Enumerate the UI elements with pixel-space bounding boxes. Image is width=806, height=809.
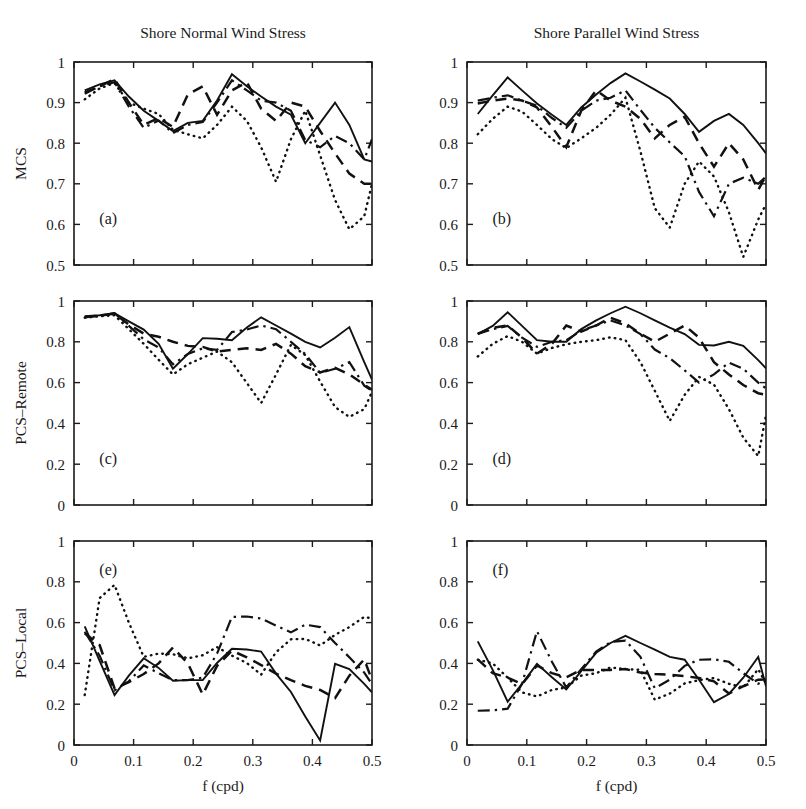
series-line-dotted (478, 660, 766, 700)
panel-f: 00.20.40.60.8100.10.20.30.40.5f (cpd)(f) (439, 534, 775, 796)
axes-frame (467, 541, 766, 745)
panel-tag: (a) (99, 210, 117, 228)
series-line-dashed (85, 633, 372, 698)
series-line-dashdot (478, 631, 766, 711)
series-line-dashdot (478, 320, 766, 388)
y-ticklabel: 1 (58, 534, 66, 550)
series-line-solid (478, 307, 766, 369)
y-ticklabel: 0.2 (46, 697, 65, 713)
series-line-dotted (478, 336, 766, 456)
x-ticklabel: 0.3 (637, 753, 656, 769)
axes-frame (467, 301, 766, 505)
y-ticklabel: 1 (451, 534, 459, 550)
series-line-solid (478, 73, 766, 153)
column-title-2: Shore Parallel Wind Stress (534, 24, 700, 41)
y-ticklabel: 0.8 (46, 574, 65, 590)
y-ticklabel: 0.8 (46, 136, 65, 152)
panel-d: 00.20.40.60.81(d) (439, 294, 766, 514)
axes-frame (74, 301, 372, 505)
panel-tag: (c) (99, 450, 117, 468)
x-ticklabel: 0.1 (124, 753, 143, 769)
y-ticklabel: 0 (451, 738, 459, 754)
panel-tag: (d) (492, 450, 511, 468)
series-line-dashed (478, 90, 766, 189)
y-ticklabel: 0 (58, 738, 66, 754)
y-ticklabel: 1 (451, 294, 459, 310)
y-ticklabel: 0.9 (439, 95, 458, 111)
y-ticklabel: 0.6 (46, 217, 65, 233)
y-ticklabel: 0.7 (46, 176, 65, 192)
series-line-dashdot (85, 80, 372, 159)
y-ticklabel: 1 (58, 294, 66, 310)
y-ticklabel: 0.9 (46, 95, 65, 111)
x-axis-title: f (cpd) (596, 777, 638, 795)
x-ticklabel: 0 (463, 753, 471, 769)
x-ticklabel: 0.4 (303, 753, 322, 769)
panel-b: 0.50.60.70.80.91(b) (439, 55, 766, 274)
x-ticklabel: 0.5 (757, 753, 776, 769)
series-line-dashed (478, 318, 766, 395)
x-ticklabel: 0.3 (243, 753, 262, 769)
x-ticklabel: 0.5 (363, 753, 382, 769)
y-ticklabel: 1 (58, 55, 66, 71)
y-ticklabel: 0.2 (439, 457, 458, 473)
x-ticklabel: 0.2 (577, 753, 596, 769)
y-ticklabel: 0.8 (439, 136, 458, 152)
panel-a: 0.50.60.70.80.91MCS(a) (12, 55, 372, 274)
panel-tag: (b) (492, 210, 511, 228)
x-ticklabel: 0.1 (517, 753, 536, 769)
x-axis-title: f (cpd) (202, 777, 244, 795)
y-ticklabel: 0.8 (439, 334, 458, 350)
y-ticklabel: 0.2 (46, 457, 65, 473)
panel-c: 00.20.40.60.81PCS–Remote(c) (12, 294, 372, 514)
panel-e: 00.20.40.60.8100.10.20.30.40.5PCS–Localf… (12, 534, 381, 796)
series-line-dotted (85, 315, 372, 417)
y-ticklabel: 0.4 (439, 656, 458, 672)
y-ticklabel: 0.6 (46, 615, 65, 631)
x-ticklabel: 0.4 (697, 753, 716, 769)
x-ticklabel: 0 (70, 753, 78, 769)
y-ticklabel: 0.8 (46, 334, 65, 350)
axes-frame (74, 541, 372, 745)
y-ticklabel: 0.6 (439, 615, 458, 631)
series-line-dotted (478, 98, 766, 257)
axes-frame (467, 62, 766, 265)
y-ticklabel: 0.8 (439, 574, 458, 590)
multi-panel-coherence-figure: Shore Normal Wind StressShore Parallel W… (0, 0, 806, 809)
y-ticklabel: 1 (451, 55, 459, 71)
y-axis-title: PCS–Local (12, 608, 29, 679)
column-title-1: Shore Normal Wind Stress (140, 24, 306, 41)
y-ticklabel: 0.6 (439, 217, 458, 233)
y-ticklabel: 0.6 (439, 375, 458, 391)
y-ticklabel: 0.7 (439, 176, 458, 192)
y-axis-title: MCS (12, 147, 29, 180)
y-ticklabel: 0.4 (46, 416, 65, 432)
y-ticklabel: 0.5 (439, 258, 458, 274)
y-ticklabel: 0.6 (46, 375, 65, 391)
y-ticklabel: 0 (451, 498, 459, 514)
series-line-dashdot (85, 313, 372, 391)
x-ticklabel: 0.2 (184, 753, 203, 769)
panel-tag: (f) (492, 561, 508, 579)
series-line-dashed (85, 314, 372, 390)
y-ticklabel: 0.4 (439, 416, 458, 432)
y-ticklabel: 0 (58, 498, 66, 514)
series-line-dashed (478, 659, 766, 693)
y-ticklabel: 0.4 (46, 656, 65, 672)
figure-canvas: Shore Normal Wind StressShore Parallel W… (0, 0, 806, 809)
y-axis-title: PCS–Remote (12, 361, 29, 445)
y-ticklabel: 0.5 (46, 258, 65, 274)
y-ticklabel: 0.2 (439, 697, 458, 713)
panel-tag: (e) (99, 561, 117, 579)
